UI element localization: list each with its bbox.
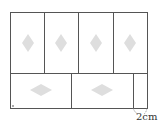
- diamond-icon: [55, 34, 67, 52]
- diamond-icon: [124, 34, 136, 52]
- gap-width-label: 2cm: [136, 111, 157, 122]
- diamond-icon: [22, 34, 34, 52]
- diamond-icon: [90, 34, 102, 52]
- diamond-icon: [30, 84, 52, 96]
- diamond-icon: [91, 84, 113, 96]
- corner-mark: [12, 105, 14, 107]
